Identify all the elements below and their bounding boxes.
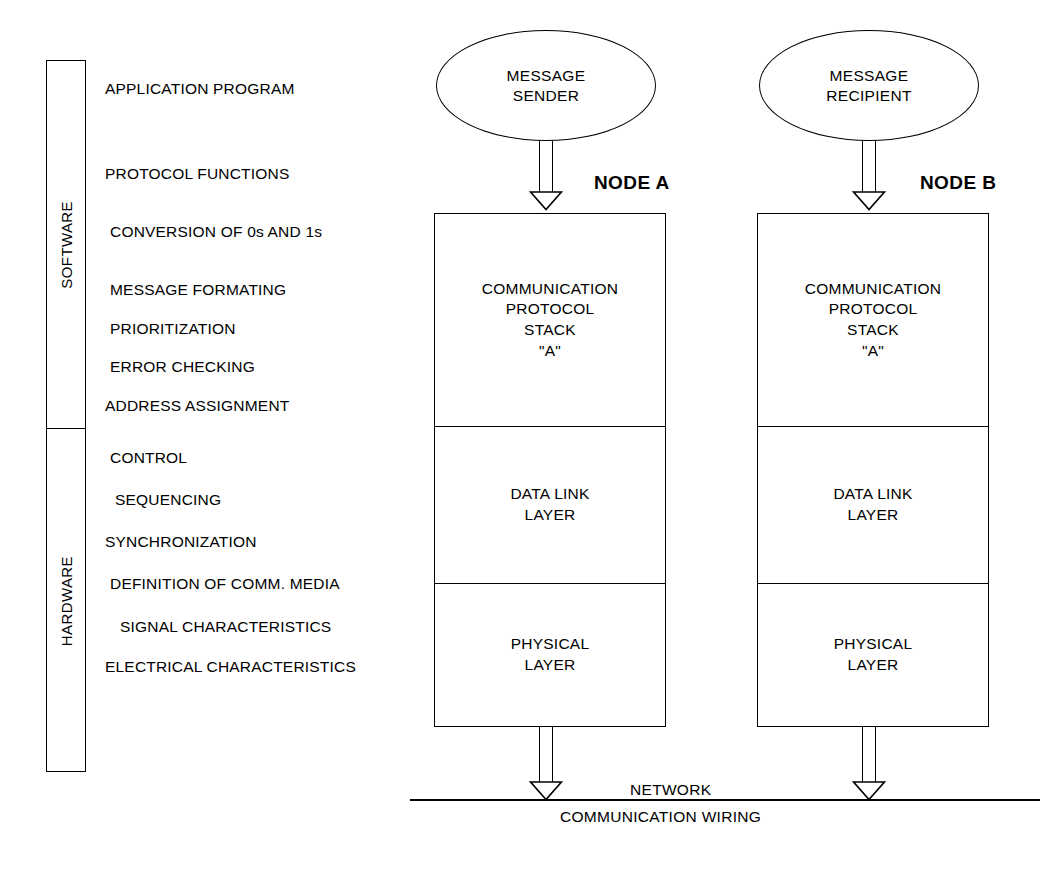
stack-layer-physical-b: PHYSICAL LAYER — [758, 584, 988, 725]
layer-line: COMMUNICATION — [805, 279, 941, 300]
layer-line: PHYSICAL — [834, 634, 913, 655]
arrow-shaft — [862, 141, 876, 193]
function-item: MESSAGE FORMATING — [110, 281, 286, 299]
arrow-shaft — [539, 141, 553, 193]
bracket-cell-software: SOFTWARE — [47, 61, 85, 429]
layer-line: PROTOCOL — [829, 299, 918, 320]
node-a-group: MESSAGE SENDER NODE A COMMUNICATION PROT… — [404, 0, 704, 873]
layer-line: STACK — [524, 320, 576, 341]
stack-layer-datalink-b: DATA LINK LAYER — [758, 427, 988, 584]
function-item: SEQUENCING — [115, 491, 221, 509]
diagram-canvas: SOFTWARE HARDWARE APPLICATION PROGRAMPRO… — [0, 0, 1064, 873]
node-b-group: MESSAGE RECIPIENT NODE B COMMUNICATION P… — [727, 0, 1027, 873]
arrow-shaft — [862, 727, 876, 783]
node-a-title: NODE A — [594, 172, 670, 194]
message-recipient-ellipse: MESSAGE RECIPIENT — [759, 30, 979, 141]
function-item: SIGNAL CHARACTERISTICS — [120, 618, 331, 636]
arrow-head — [852, 191, 886, 211]
arrow-head — [529, 781, 563, 801]
endpoint-line-1: MESSAGE — [830, 66, 909, 86]
layer-line: "A" — [862, 341, 884, 362]
layer-line: PROTOCOL — [506, 299, 595, 320]
layer-line: PHYSICAL — [511, 634, 590, 655]
stack-layer-physical-a: PHYSICAL LAYER — [435, 584, 665, 725]
layer-line: "A" — [539, 341, 561, 362]
function-item: CONTROL — [110, 449, 187, 467]
node-b-title: NODE B — [920, 172, 996, 194]
function-item: CONVERSION OF 0s AND 1s — [110, 223, 322, 241]
stack-layer-datalink-a: DATA LINK LAYER — [435, 427, 665, 584]
communication-wiring-label: COMMUNICATION WIRING — [560, 808, 761, 826]
layer-line: LAYER — [525, 505, 576, 526]
message-sender-ellipse: MESSAGE SENDER — [436, 30, 656, 141]
endpoint-line-1: MESSAGE — [507, 66, 586, 86]
arrow-head — [529, 191, 563, 211]
layer-line: STACK — [847, 320, 899, 341]
network-bus-line — [410, 799, 1040, 801]
software-label: SOFTWARE — [58, 201, 75, 289]
hardware-label: HARDWARE — [58, 556, 75, 646]
function-item: ERROR CHECKING — [110, 358, 255, 376]
stack-layer-protocol-b: COMMUNICATION PROTOCOL STACK "A" — [758, 214, 988, 427]
layer-line: LAYER — [848, 505, 899, 526]
function-item: APPLICATION PROGRAM — [105, 80, 295, 98]
layer-line: LAYER — [848, 655, 899, 676]
protocol-stack-a: COMMUNICATION PROTOCOL STACK "A" DATA LI… — [434, 213, 666, 727]
endpoint-line-2: RECIPIENT — [826, 86, 911, 106]
network-label: NETWORK — [627, 781, 714, 799]
bracket-cell-hardware: HARDWARE — [47, 429, 85, 773]
function-item: PROTOCOL FUNCTIONS — [105, 165, 289, 183]
function-item: PRIORITIZATION — [110, 320, 236, 338]
layer-line: COMMUNICATION — [482, 279, 618, 300]
arrow-shaft — [539, 727, 553, 783]
layer-line: LAYER — [525, 655, 576, 676]
arrow-head — [852, 781, 886, 801]
classification-bracket: SOFTWARE HARDWARE — [46, 60, 86, 772]
layer-line: DATA LINK — [510, 484, 589, 505]
stack-layer-protocol-a: COMMUNICATION PROTOCOL STACK "A" — [435, 214, 665, 427]
function-item: ADDRESS ASSIGNMENT — [105, 397, 289, 415]
function-item: DEFINITION OF COMM. MEDIA — [110, 575, 340, 593]
protocol-stack-b: COMMUNICATION PROTOCOL STACK "A" DATA LI… — [757, 213, 989, 727]
function-item: ELECTRICAL CHARACTERISTICS — [105, 658, 356, 676]
layer-line: DATA LINK — [833, 484, 912, 505]
function-item: SYNCHRONIZATION — [105, 533, 257, 551]
endpoint-line-2: SENDER — [513, 86, 579, 106]
